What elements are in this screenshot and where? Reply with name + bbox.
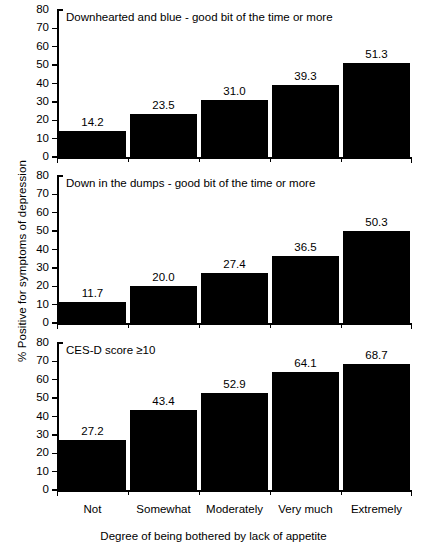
bar [343, 231, 410, 323]
bar [59, 302, 126, 323]
x-axis-tick [57, 157, 58, 163]
y-axis-tick-label: 40 [17, 411, 49, 423]
y-axis-tick-label: 80 [17, 170, 49, 182]
x-axis-tick [411, 490, 412, 496]
y-axis-tick [52, 453, 57, 454]
bar-value-label: 39.3 [266, 70, 345, 82]
chart-panel-3: CES-D score ≥100102030405060708027.243.4… [0, 343, 427, 498]
bar-value-label: 64.1 [266, 357, 345, 369]
bar-value-label: 14.2 [53, 116, 132, 128]
y-axis-tick-label: 30 [17, 262, 49, 274]
y-axis-tick-label: 10 [17, 133, 49, 145]
bar-value-label: 31.0 [195, 85, 274, 97]
y-axis-tick [52, 471, 57, 472]
y-axis-tick-label: 20 [17, 114, 49, 126]
y-axis-tick-label: 60 [17, 41, 49, 53]
bar-value-label: 20.0 [124, 271, 203, 283]
y-axis-tick-label: 20 [17, 447, 49, 459]
chart-panel-1: Downhearted and blue - good bit of the t… [0, 10, 427, 165]
bar [343, 364, 410, 490]
bar [59, 131, 126, 157]
x-axis-category-label: Extremely [331, 503, 422, 515]
y-axis-tick [52, 416, 57, 417]
y-axis-tick-label: 70 [17, 22, 49, 34]
y-axis-tick-label: 60 [17, 374, 49, 386]
bar [201, 393, 268, 490]
bar [130, 114, 197, 157]
bar-value-label: 27.2 [53, 425, 132, 437]
bar [59, 440, 126, 490]
y-axis-tick [52, 194, 57, 195]
y-axis-tick-label: 0 [17, 317, 49, 329]
bar [130, 286, 197, 323]
y-axis-tick [52, 397, 57, 398]
y-axis-tick-label: 40 [17, 78, 49, 90]
y-axis-tick [52, 230, 57, 231]
x-axis-tick [270, 490, 271, 495]
y-axis-tick-label: 0 [17, 484, 49, 496]
y-axis-tick-label: 20 [17, 280, 49, 292]
x-axis-title: Degree of being bothered by lack of appe… [0, 530, 427, 542]
x-axis-tick [128, 157, 129, 162]
x-axis-line [57, 157, 412, 159]
bar-value-label: 52.9 [195, 378, 274, 390]
y-axis-tick-label: 60 [17, 207, 49, 219]
x-axis-tick [341, 490, 342, 495]
x-axis-tick [199, 323, 200, 328]
bar-value-label: 43.4 [124, 395, 203, 407]
x-axis-tick [199, 490, 200, 495]
y-axis-tick-label: 80 [17, 337, 49, 349]
y-axis-tick [57, 175, 63, 176]
x-axis-line [57, 323, 412, 325]
bar [130, 410, 197, 490]
y-axis-tick [52, 28, 57, 29]
y-axis-tick [52, 46, 57, 47]
y-axis-tick-label: 50 [17, 225, 49, 237]
x-axis-tick [128, 490, 129, 495]
x-axis-tick [128, 323, 129, 328]
bar [343, 63, 410, 157]
y-axis-tick [52, 249, 57, 250]
plot-area: 0102030405060708011.720.027.436.550.3 [57, 176, 412, 323]
y-axis-tick-label: 0 [17, 151, 49, 163]
bar-value-label: 51.3 [337, 48, 416, 60]
y-axis-tick-label: 50 [17, 59, 49, 71]
y-axis-tick-label: 80 [17, 4, 49, 16]
x-axis-tick [57, 323, 58, 329]
bar [201, 273, 268, 323]
y-axis-tick [52, 101, 57, 102]
bar-value-label: 50.3 [337, 216, 416, 228]
y-axis-tick [52, 361, 57, 362]
y-axis-tick-label: 30 [17, 96, 49, 108]
bar [272, 256, 339, 323]
y-axis-tick [57, 342, 63, 343]
y-axis-tick [52, 64, 57, 65]
x-axis-tick [341, 157, 342, 162]
y-axis-tick-label: 10 [17, 299, 49, 311]
bar [272, 85, 339, 157]
bar-value-label: 23.5 [124, 99, 203, 111]
x-axis-tick [57, 490, 58, 496]
y-axis-tick [57, 9, 63, 10]
bar-value-label: 11.7 [53, 287, 132, 299]
bar [272, 372, 339, 490]
x-axis-tick [199, 157, 200, 162]
bar-value-label: 68.7 [337, 349, 416, 361]
x-axis-tick [411, 323, 412, 329]
bar-chart-figure: % Positive for symptoms of depression Do… [0, 0, 427, 551]
x-axis-tick [341, 323, 342, 328]
y-axis-tick-label: 40 [17, 244, 49, 256]
y-axis-tick [52, 212, 57, 213]
plot-area: 0102030405060708014.223.531.039.351.3 [57, 10, 412, 157]
y-axis-tick [52, 267, 57, 268]
y-axis-tick-label: 10 [17, 466, 49, 478]
y-axis-tick [52, 379, 57, 380]
y-axis-tick-label: 50 [17, 392, 49, 404]
y-axis-tick [52, 83, 57, 84]
y-axis-tick-label: 30 [17, 429, 49, 441]
y-axis-tick [52, 138, 57, 139]
y-axis-tick-label: 70 [17, 355, 49, 367]
x-axis-tick [411, 157, 412, 163]
bar-value-label: 27.4 [195, 258, 274, 270]
x-axis-tick [270, 157, 271, 162]
